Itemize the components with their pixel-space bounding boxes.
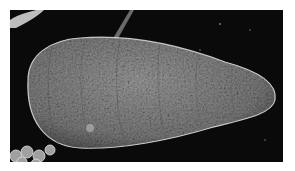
spore-cluster <box>10 145 55 162</box>
larva-body <box>28 37 275 148</box>
debris-top-left <box>10 10 44 28</box>
micrograph-frame <box>10 10 283 162</box>
micrograph-image <box>10 10 283 162</box>
